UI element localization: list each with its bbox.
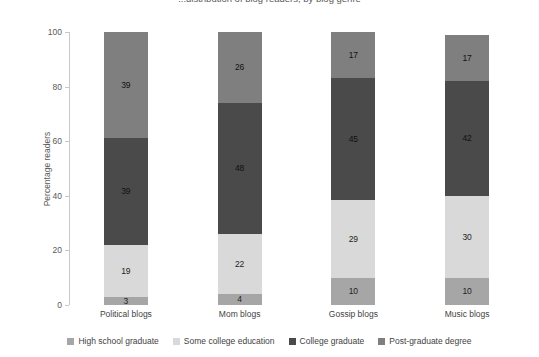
bar-segment-value: 22 <box>235 260 244 269</box>
bar-segment[interactable]: 10 <box>445 278 489 305</box>
bar-segment[interactable]: 22 <box>218 234 262 294</box>
bar-segment[interactable]: 26 <box>218 32 262 103</box>
bar-segment-value: 30 <box>462 233 471 242</box>
bar-group[interactable]: 10294517 <box>331 32 375 305</box>
bar-segment[interactable]: 10 <box>331 278 375 305</box>
legend-item[interactable]: Some college education <box>173 336 275 346</box>
legend-item-label: Post-graduate degree <box>389 336 471 346</box>
y-axis-tick-label: 100 <box>48 27 62 37</box>
chart-legend: High school graduateSome college educati… <box>0 336 539 346</box>
bar-segment[interactable]: 39 <box>104 32 148 138</box>
y-axis-tick-mark <box>65 32 69 33</box>
bar-stack: 4224826 <box>218 32 262 305</box>
bar-segment[interactable]: 45 <box>331 78 375 200</box>
y-axis-tick-mark <box>65 196 69 197</box>
x-axis-tick-label: Political blogs <box>100 309 152 319</box>
x-axis-tick-label: Mom blogs <box>219 309 261 319</box>
bar-segment-value: 10 <box>349 287 358 296</box>
y-axis-tick-label: 60 <box>53 136 62 146</box>
bar-segment-value: 45 <box>349 135 358 144</box>
bar-group[interactable]: 10304217 <box>445 32 489 305</box>
bar-segment[interactable]: 19 <box>104 245 148 297</box>
bar-segment[interactable]: 3 <box>104 297 148 305</box>
bar-stack: 3193939 <box>104 32 148 305</box>
legend-swatch-icon <box>378 338 385 345</box>
bar-segment[interactable]: 17 <box>331 32 375 78</box>
bar-segment-value: 10 <box>462 287 471 296</box>
bar-segment-value: 17 <box>462 54 471 63</box>
bar-segment-value: 48 <box>235 164 244 173</box>
plot-area: 020406080100 319393942248261029451710304… <box>69 32 524 305</box>
bar-segment-value: 29 <box>349 235 358 244</box>
bar-stack: 10304217 <box>445 32 489 305</box>
bar-segment-value: 39 <box>121 81 130 90</box>
y-axis-tick-mark <box>65 305 69 306</box>
y-axis-tick-mark <box>65 87 69 88</box>
legend-item-label: High school graduate <box>78 336 158 346</box>
bar-segment-value: 42 <box>462 134 471 143</box>
y-axis-tick-label: 80 <box>53 82 62 92</box>
y-axis-tick-mark <box>65 141 69 142</box>
bar-segment[interactable]: 4 <box>218 294 262 305</box>
bar-segment-value: 3 <box>124 297 129 305</box>
bar-group[interactable]: 3193939 <box>104 32 148 305</box>
x-axis-labels: Political blogsMom blogsGossip blogsMusi… <box>69 309 524 325</box>
x-axis-tick-label: Gossip blogs <box>329 309 378 319</box>
bar-segment[interactable]: 42 <box>445 81 489 196</box>
bar-segment-value: 26 <box>235 63 244 72</box>
legend-item[interactable]: College graduate <box>289 336 365 346</box>
bar-group[interactable]: 4224826 <box>218 32 262 305</box>
bar-segment-value: 39 <box>121 187 130 196</box>
bar-segment-value: 4 <box>237 295 242 304</box>
legend-item-label: College graduate <box>300 336 365 346</box>
bar-segment[interactable]: 29 <box>331 200 375 278</box>
bar-segment[interactable]: 30 <box>445 196 489 278</box>
y-axis-tick-label: 40 <box>53 191 62 201</box>
y-axis-tick-mark <box>65 250 69 251</box>
bar-segment[interactable]: 39 <box>104 138 148 244</box>
y-axis-tick-label: 20 <box>53 245 62 255</box>
legend-swatch-icon <box>289 338 296 345</box>
bar-stack: 10294517 <box>331 32 375 305</box>
legend-swatch-icon <box>67 338 74 345</box>
y-axis-tick-label: 0 <box>57 300 62 310</box>
legend-item[interactable]: High school graduate <box>67 336 158 346</box>
stacked-bar-chart: ...distribution of blog readers, by blog… <box>0 0 539 357</box>
bar-segment-value: 17 <box>349 51 358 60</box>
x-axis-tick-label: Music blogs <box>445 309 490 319</box>
bar-segment[interactable]: 17 <box>445 35 489 81</box>
y-axis-title-text: Percentage readers <box>42 131 52 206</box>
legend-item-label: Some college education <box>184 336 275 346</box>
bar-segment-value: 19 <box>121 267 130 276</box>
legend-swatch-icon <box>173 338 180 345</box>
y-axis-line <box>69 32 70 305</box>
legend-item[interactable]: Post-graduate degree <box>378 336 471 346</box>
bar-segment[interactable]: 48 <box>218 103 262 234</box>
chart-title: ...distribution of blog readers, by blog… <box>0 0 539 4</box>
